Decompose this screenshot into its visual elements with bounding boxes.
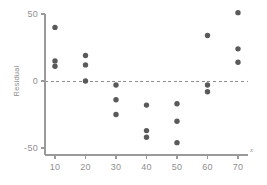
data-point [235, 46, 240, 51]
data-point [235, 60, 240, 65]
x-tick-label: 70 [233, 162, 244, 172]
x-axis-tick-labels: 10203040506070 [50, 162, 244, 172]
x-tick-label: 40 [141, 162, 152, 172]
data-point [144, 102, 149, 107]
y-tick-label: -50 [24, 143, 38, 153]
plot-canvas: -50050 10203040506070 Residual x [0, 0, 267, 185]
data-point [83, 53, 88, 58]
y-axis-title: Residual [12, 65, 21, 96]
x-tick-label: 60 [202, 162, 213, 172]
data-point [113, 97, 118, 102]
data-point [113, 112, 118, 117]
data-point [205, 82, 210, 87]
data-point [113, 82, 118, 87]
data-point [83, 78, 88, 83]
x-tick-label: 50 [172, 162, 183, 172]
data-point [52, 25, 57, 30]
data-point [144, 135, 149, 140]
data-point [174, 101, 179, 106]
y-axis-tick-labels: -50050 [24, 9, 38, 153]
y-axis-ticks [41, 14, 45, 148]
y-tick-label: 50 [27, 9, 38, 19]
data-point [205, 33, 210, 38]
data-points-group [52, 10, 240, 145]
data-point [52, 64, 57, 69]
x-tick-label: 20 [80, 162, 91, 172]
y-tick-label: 0 [33, 76, 38, 86]
x-axis-title: x [249, 146, 254, 154]
data-point [174, 119, 179, 124]
data-point [144, 128, 149, 133]
x-tick-label: 30 [111, 162, 122, 172]
x-axis-ticks [55, 155, 238, 159]
x-axis: 10203040506070 [45, 155, 248, 172]
data-point [83, 62, 88, 67]
data-point [174, 140, 179, 145]
data-point [52, 58, 57, 63]
y-axis: -50050 [24, 9, 45, 155]
residual-scatter-plot: -50050 10203040506070 Residual x [0, 0, 267, 185]
data-point [205, 89, 210, 94]
data-point [235, 10, 240, 15]
x-tick-label: 10 [50, 162, 61, 172]
